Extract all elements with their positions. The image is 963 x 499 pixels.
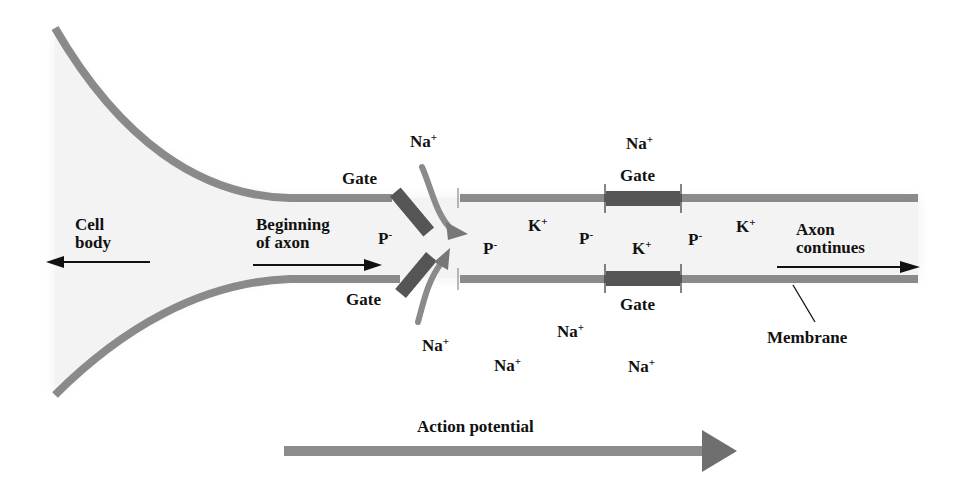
potassium-ion: K+ — [736, 218, 756, 236]
cell-body-line2: body — [75, 234, 111, 252]
gate-label-open-top: Gate — [342, 170, 377, 188]
cell-body-label: Cell body — [75, 216, 111, 252]
axon-continues-label: Axon continues — [796, 221, 865, 257]
action-potential-label: Action potential — [417, 418, 534, 436]
protein-anion: P- — [483, 240, 497, 258]
beginning-axon-line1: Beginning — [256, 216, 330, 234]
sodium-ion: Na+ — [557, 323, 584, 341]
sodium-ion: Na+ — [494, 357, 521, 375]
protein-anion: P- — [688, 231, 702, 249]
gate-label-closed-bottom: Gate — [620, 296, 655, 314]
sodium-ion: Na+ — [410, 133, 437, 151]
sodium-ion: Na+ — [422, 337, 449, 355]
closed-gate-top-icon — [606, 191, 680, 206]
beginning-axon-line2: of axon — [256, 234, 330, 252]
action-potential-arrow-shaft — [284, 446, 704, 456]
membrane-leader-line — [793, 285, 815, 322]
sodium-ion: Na+ — [626, 135, 653, 153]
protein-anion: P- — [579, 230, 593, 248]
axon-continues-line1: Axon — [796, 221, 865, 239]
axon-continues-line2: continues — [796, 239, 865, 257]
beginning-of-axon-label: Beginning of axon — [256, 216, 330, 252]
potassium-ion: K+ — [632, 240, 652, 258]
sodium-ion: Na+ — [628, 358, 655, 376]
axon-diagram: Cell body Beginning of axon Axon continu… — [0, 0, 963, 499]
gate-label-open-bottom: Gate — [346, 291, 381, 309]
gate-label-closed-top: Gate — [620, 167, 655, 185]
cell-body-line1: Cell — [75, 216, 111, 234]
potassium-ion: K+ — [528, 217, 548, 235]
membrane-label: Membrane — [767, 329, 847, 347]
closed-gate-bottom-icon — [606, 271, 680, 286]
action-potential-arrowhead-icon — [702, 430, 737, 472]
protein-anion: P- — [378, 230, 392, 248]
